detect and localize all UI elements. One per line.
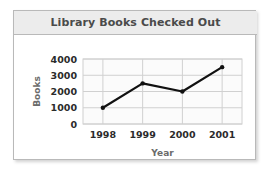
y-axis-title: Books: [32, 76, 42, 107]
x-axis-tick-label: 1998: [90, 129, 117, 140]
y-axis-tick-label: 2000: [51, 86, 78, 97]
chart-screenshot: Library Books Checked Out 01000200030004…: [0, 0, 273, 174]
y-axis-tick-label: 3000: [51, 70, 78, 81]
line-chart-svg: 01000200030004000 1998199920002001 Books…: [14, 35, 257, 161]
chart-title-bar: Library Books Checked Out: [14, 11, 257, 35]
chart-card: Library Books Checked Out 01000200030004…: [13, 10, 256, 160]
x-axis-tick-label: 1999: [129, 129, 155, 140]
x-axis-tick-label: 2001: [209, 129, 235, 140]
y-axis-tick-label: 0: [70, 119, 77, 130]
x-axis-tick-labels: 1998199920002001: [90, 129, 236, 140]
y-axis-tick-labels: 01000200030004000: [51, 54, 78, 130]
data-point-marker: [220, 65, 224, 69]
y-axis-tick-label: 1000: [51, 102, 78, 113]
x-axis-title: Year: [150, 148, 174, 158]
page-title: Library Books Checked Out: [50, 16, 220, 29]
data-point-marker: [140, 81, 144, 85]
x-axis-tick-label: 2000: [169, 129, 196, 140]
data-point-marker: [180, 89, 184, 93]
chart-plot-region: 01000200030004000 1998199920002001 Books…: [14, 35, 257, 161]
data-point-marker: [101, 106, 105, 110]
y-axis-tick-label: 4000: [51, 54, 78, 65]
